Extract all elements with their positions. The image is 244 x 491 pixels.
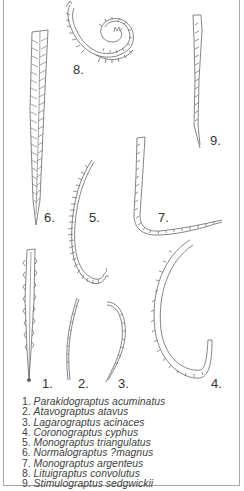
- specimen-9-drawing: [193, 15, 202, 148]
- specimen-4-drawing: [151, 240, 212, 378]
- label-specimen-5: 5.: [89, 211, 100, 224]
- label-specimen-3: 3.: [118, 377, 129, 390]
- specimen-6-drawing: [30, 30, 48, 225]
- specimen-7-drawing: [134, 137, 222, 235]
- specimen-2-drawing: [67, 298, 79, 380]
- label-specimen-1: 1.: [42, 377, 53, 390]
- label-specimen-2: 2.: [78, 377, 89, 390]
- label-specimen-7: 7.: [158, 211, 169, 224]
- specimen-8-drawing: [66, 1, 133, 63]
- label-specimen-6: 6.: [44, 211, 55, 224]
- legend-item: 9. Stimulograptus sedgwickii: [22, 479, 165, 489]
- label-specimen-4: 4.: [211, 377, 222, 390]
- legend-species-name: Stimulograptus sedgwickii: [34, 478, 154, 489]
- specimen-3-drawing: [106, 302, 126, 382]
- specimen-1-drawing: [23, 249, 37, 382]
- legend-number: 9.: [22, 478, 31, 489]
- species-legend: 1. Parakidograptus acuminatus 2. Atavogr…: [22, 397, 165, 490]
- label-specimen-8: 8.: [73, 63, 84, 76]
- label-specimen-9: 9.: [210, 134, 221, 147]
- graptolite-plate-illustration: [0, 0, 244, 410]
